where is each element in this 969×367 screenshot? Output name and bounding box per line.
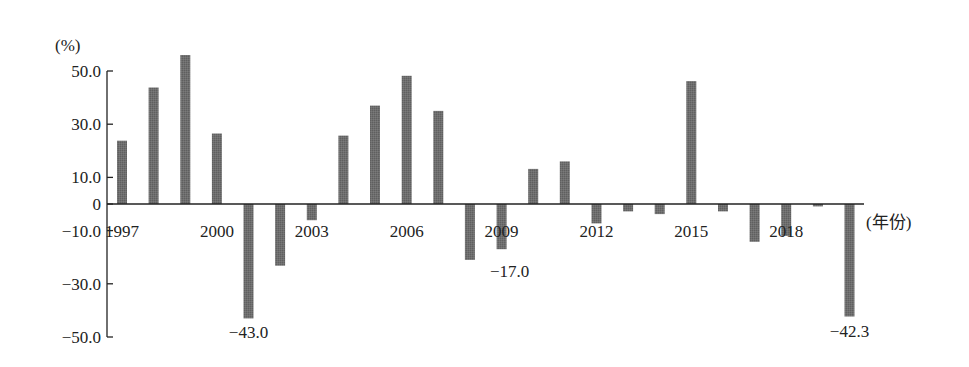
bar-2000	[212, 134, 222, 205]
bar-2002	[275, 204, 285, 266]
data-label-2020: −42.3	[830, 322, 869, 341]
x-axis-unit-label: (年份)	[866, 213, 911, 232]
bar-2003	[307, 204, 317, 220]
bar-2016	[718, 204, 728, 211]
bar-2008	[465, 204, 475, 260]
x-tick-label: 2018	[769, 222, 803, 241]
bar-2006	[402, 76, 412, 204]
x-tick-label: 2015	[674, 222, 708, 241]
y-axis: 50.030.010.00−10.0−30.0−50.0	[62, 62, 113, 347]
bar-2005	[370, 106, 380, 204]
bar-1999	[180, 55, 190, 204]
bar-1998	[149, 88, 159, 205]
bar-chart: 50.030.010.00−10.0−30.0−50.0 19972000200…	[0, 0, 969, 367]
data-annotations: −43.0−17.0−42.3	[229, 262, 869, 342]
bar-2012	[592, 204, 602, 223]
bar-2001	[244, 204, 254, 318]
bar-2004	[338, 136, 348, 204]
y-tick-label: 30.0	[71, 115, 101, 134]
x-tick-label: 2003	[295, 222, 329, 241]
y-axis-unit-label: (%)	[55, 36, 80, 55]
x-tick-label: 2000	[200, 222, 234, 241]
bars	[117, 55, 855, 318]
bar-2014	[655, 204, 665, 214]
bar-2017	[750, 204, 760, 242]
bar-2007	[433, 111, 443, 204]
x-tick-label: 2009	[485, 222, 519, 241]
bar-2010	[528, 169, 538, 204]
y-tick-label: −10.0	[62, 222, 101, 241]
bar-2013	[623, 204, 633, 211]
bar-2015	[686, 81, 696, 204]
data-label-2001: −43.0	[229, 323, 268, 342]
y-tick-label: −50.0	[62, 328, 101, 347]
x-tick-label: 2006	[390, 222, 424, 241]
x-tick-label: 2012	[579, 222, 613, 241]
y-tick-label: −30.0	[62, 275, 101, 294]
x-tick-label: 1997	[105, 222, 140, 241]
data-label-2009: −17.0	[490, 262, 529, 281]
y-tick-label: 0	[93, 195, 102, 214]
bar-1997	[117, 141, 127, 204]
bar-2011	[560, 161, 570, 204]
bar-2020	[845, 204, 855, 317]
y-tick-label: 10.0	[71, 168, 101, 187]
y-tick-label: 50.0	[71, 62, 101, 81]
